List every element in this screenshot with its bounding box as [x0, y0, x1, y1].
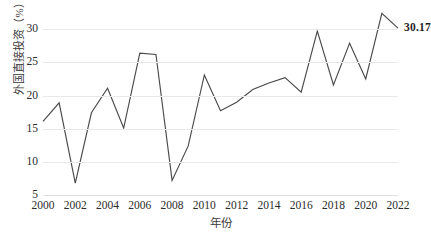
y-tick-label: 25	[27, 57, 39, 69]
x-tick-label: 2010	[193, 198, 216, 212]
x-axis-title: 年份	[43, 214, 398, 230]
gridline-y-15	[43, 129, 398, 130]
y-tick-label: 10	[27, 156, 39, 168]
x-tick-label: 2006	[128, 198, 151, 212]
gridline-y-5	[43, 195, 398, 196]
series-line	[43, 6, 398, 195]
series-polyline	[43, 13, 398, 183]
y-tick-label: 15	[27, 123, 39, 135]
y-axis-title: 外国直接投资（%）	[10, 0, 26, 126]
plot-area: 30.17 51015202530	[43, 6, 398, 195]
y-tick-label: 30	[27, 23, 39, 35]
x-tick-label: 2022	[387, 198, 410, 212]
x-tick-label: 2020	[354, 198, 377, 212]
y-tick-label: 20	[27, 90, 39, 102]
x-tick-label: 2018	[322, 198, 345, 212]
x-tick-label: 2000	[32, 198, 55, 212]
x-tick-label: 2002	[64, 198, 87, 212]
gridline-y-30	[43, 29, 398, 30]
x-axis-ticks: 2000200220042006200820102012201420162018…	[43, 198, 398, 214]
gridline-y-20	[43, 96, 398, 97]
end-point-data-label: 30.17	[404, 21, 431, 33]
gridline-y-10	[43, 162, 398, 163]
x-tick-label: 2014	[257, 198, 280, 212]
gridline-y-25	[43, 62, 398, 63]
x-tick-label: 2012	[225, 198, 248, 212]
x-tick-label: 2004	[96, 198, 119, 212]
x-tick-label: 2016	[290, 198, 313, 212]
x-tick-label: 2008	[161, 198, 184, 212]
